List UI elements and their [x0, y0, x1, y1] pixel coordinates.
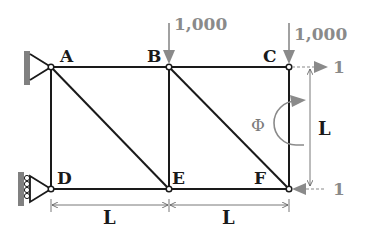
joint-D: [48, 186, 54, 192]
node-label-F: F: [254, 168, 266, 188]
node-label-E: E: [172, 168, 185, 188]
unit-load-label-F: 1: [333, 179, 345, 199]
joint-C: [286, 64, 292, 70]
member-BF: [169, 67, 289, 189]
node-label-C: C: [263, 46, 277, 66]
load-label-C: 1,000: [294, 24, 347, 44]
horizontal-dimension-label-2: L: [222, 207, 235, 228]
node-label-D: D: [57, 168, 72, 188]
joint-E: [166, 186, 172, 192]
unit-load-label-C: 1: [333, 57, 345, 77]
horizontal-dimension-label-1: L: [103, 207, 116, 228]
rotation-label-phi: Φ: [251, 115, 265, 135]
load-label-B: 1,000: [174, 14, 227, 34]
pin-support-icon: [24, 51, 51, 85]
node-label-A: A: [59, 46, 74, 66]
truss-diagram: A B C D E F 1,000 1,000 1 1 Φ L L: [0, 0, 365, 231]
joint-A: [48, 64, 54, 70]
vertical-dimension-label: L: [318, 118, 331, 139]
node-label-B: B: [147, 46, 161, 66]
joint-F: [286, 186, 292, 192]
unit-load-arrow-F: [292, 183, 326, 195]
joint-B: [166, 64, 172, 70]
roller-support-icon: [18, 172, 51, 206]
